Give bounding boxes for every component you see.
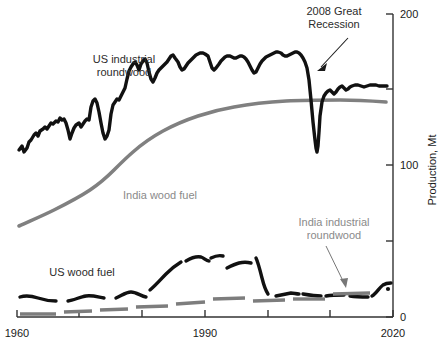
series-us-industrial-roundwood bbox=[19, 52, 387, 152]
india-pointer-arrow-shaft bbox=[326, 246, 344, 283]
y-tick-label-0: 0 bbox=[400, 311, 406, 323]
india-industrial-roundwood-label-line2: roundwood bbox=[307, 229, 361, 241]
recession-arrow-head bbox=[317, 63, 327, 71]
y-axis-title: Production, Mt bbox=[426, 135, 438, 206]
india-pointer-arrow-head bbox=[340, 278, 348, 288]
label-us-industrial-roundwood-line1: US industrial bbox=[93, 53, 155, 65]
y-axis bbox=[386, 14, 393, 317]
india-industrial-roundwood-label-line1: India industrial bbox=[299, 216, 370, 228]
label-india-wood-fuel: India wood fuel bbox=[123, 189, 197, 201]
x-tick-label-1990: 1990 bbox=[193, 327, 217, 339]
label-us-wood-fuel: US wood fuel bbox=[49, 266, 114, 278]
x-tick-label-1960: 1960 bbox=[5, 327, 29, 339]
recession-arrow-shaft bbox=[321, 38, 348, 67]
series-india-wood-fuel bbox=[19, 100, 386, 226]
annotation-2008-recession: 2008 Great Recession bbox=[306, 5, 361, 71]
y-tick-label-200: 200 bbox=[400, 8, 418, 20]
x-tick-label-2020: 2020 bbox=[381, 327, 405, 339]
production-line-chart: 1960 1990 2020 200 100 0 Production, Mt bbox=[0, 0, 448, 345]
annotation-india-industrial-roundwood: India industrial roundwood bbox=[299, 216, 370, 288]
label-us-industrial-roundwood-line2: roundwood bbox=[97, 66, 151, 78]
recession-label-line1: 2008 Great bbox=[306, 5, 361, 17]
recession-label-line2: Recession bbox=[308, 18, 359, 30]
chart-container: 1960 1990 2020 200 100 0 Production, Mt bbox=[0, 0, 448, 345]
y-tick-label-100: 100 bbox=[400, 159, 418, 171]
